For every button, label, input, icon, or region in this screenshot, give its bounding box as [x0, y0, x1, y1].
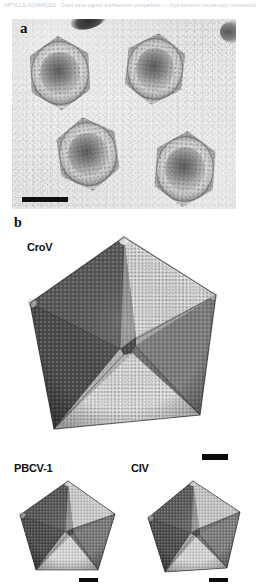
- capsid-render-pbcv1: [16, 478, 120, 578]
- panel-label-a: a: [20, 21, 28, 36]
- virus-particle: [49, 113, 127, 196]
- capsid-render-crov: [24, 233, 224, 448]
- capsid-label-civ: CIV: [131, 463, 149, 474]
- scalebar-civ: [209, 578, 228, 582]
- scalebar-pbcv1: [79, 578, 98, 582]
- capsid-label-pbcv1: PBCV-1: [14, 463, 53, 474]
- capsid-render-civ: [143, 478, 247, 578]
- virus-particle: [118, 30, 191, 109]
- panel-a-micrograph: a: [12, 19, 236, 209]
- virus-particle: [24, 34, 96, 111]
- virus-particle: [148, 129, 221, 209]
- figure-container: a b CroV PBCV-1 CIV: [0, 0, 260, 588]
- scalebar-panel-a: [22, 197, 68, 202]
- panel-label-b: b: [14, 216, 22, 230]
- scalebar-crov: [202, 454, 228, 460]
